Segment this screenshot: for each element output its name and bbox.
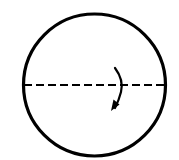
diagram-canvas [0,0,179,160]
rotation-diagram [0,0,179,160]
rotation-arrow-icon [111,68,122,111]
